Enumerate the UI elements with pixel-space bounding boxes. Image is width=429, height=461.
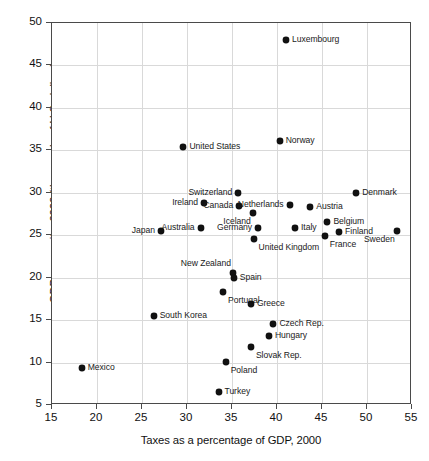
y-tick-label: 35 [8, 142, 42, 154]
data-point-marker [180, 144, 186, 150]
x-tick-mark [51, 404, 52, 409]
data-point-marker [322, 233, 328, 239]
y-tick-label: 40 [8, 100, 42, 112]
y-tick-mark [46, 319, 51, 320]
x-tick-label: 55 [391, 411, 429, 423]
x-tick-label: 20 [76, 411, 116, 423]
y-tick-mark [46, 404, 51, 405]
y-tick-mark [46, 234, 51, 235]
data-point-label: France [330, 240, 356, 249]
data-point-label: Luxembourg [292, 35, 339, 44]
data-point-label: Spain [240, 273, 262, 282]
y-tick-mark [46, 277, 51, 278]
x-tick-label: 35 [211, 411, 251, 423]
y-tick-mark [46, 107, 51, 108]
x-tick-mark [231, 404, 232, 409]
data-point-marker [277, 138, 283, 144]
data-point-label: Portugal [228, 296, 260, 305]
y-tick-mark [46, 22, 51, 23]
y-tick-label: 50 [8, 15, 42, 27]
data-point-label: Mexico [88, 363, 115, 372]
data-point-label: Austria [316, 202, 342, 211]
data-point-marker [353, 190, 359, 196]
data-point-label: Czech Rep. [279, 319, 323, 328]
data-point-label: South Korea [160, 311, 207, 320]
y-tick-label: 20 [8, 270, 42, 282]
y-tick-label: 5 [8, 397, 42, 409]
x-tick-mark [411, 404, 412, 409]
data-point-marker [283, 37, 289, 43]
data-point-label: Japan [132, 226, 155, 235]
data-point-marker [255, 225, 261, 231]
scatter-chart-figure: GDP per capita, 2000 (thousands of U.S. … [0, 0, 429, 461]
data-point-marker [248, 301, 254, 307]
x-tick-label: 45 [301, 411, 341, 423]
data-point-label: United States [189, 142, 240, 151]
x-axis-title: Taxes as a percentage of GDP, 2000 [51, 434, 411, 446]
data-point-marker [235, 190, 241, 196]
data-point-label: Germany [217, 223, 252, 232]
data-point-label: Canada [203, 201, 233, 210]
y-tick-label: 25 [8, 227, 42, 239]
data-point-marker [223, 359, 229, 365]
data-point-label: Australia [162, 223, 195, 232]
data-point-label: United Kingdom [259, 243, 319, 252]
y-tick-label: 45 [8, 57, 42, 69]
data-point-marker [248, 344, 254, 350]
data-point-label: Switzerland [188, 188, 232, 197]
data-point-marker [231, 275, 237, 281]
data-point-label: Norway [286, 136, 315, 145]
data-point-marker [307, 204, 313, 210]
x-tick-label: 40 [256, 411, 296, 423]
data-point-label: Sweden [364, 235, 395, 244]
x-tick-label: 30 [166, 411, 206, 423]
data-point-label: Italy [301, 223, 317, 232]
y-tick-mark [46, 192, 51, 193]
data-point-label: Turkey [225, 387, 251, 396]
data-point-label: Netherlands [238, 200, 284, 209]
data-point-marker [198, 225, 204, 231]
data-point-marker [336, 229, 342, 235]
x-tick-mark [321, 404, 322, 409]
data-point-marker [151, 313, 157, 319]
data-point-label: Ireland [172, 198, 198, 207]
data-points-layer: LuxembourgNorwayUnited StatesSwitzerland… [52, 23, 410, 403]
data-point-marker [266, 333, 272, 339]
y-tick-label: 10 [8, 355, 42, 367]
x-tick-label: 15 [31, 411, 71, 423]
data-point-label: New Zealand [181, 259, 231, 268]
data-point-marker [287, 202, 293, 208]
x-tick-mark [366, 404, 367, 409]
y-tick-mark [46, 64, 51, 65]
y-tick-mark [46, 149, 51, 150]
data-point-label: Greece [257, 299, 285, 308]
x-tick-mark [186, 404, 187, 409]
x-tick-mark [96, 404, 97, 409]
data-point-marker [270, 321, 276, 327]
x-tick-label: 25 [121, 411, 161, 423]
data-point-marker [324, 219, 330, 225]
data-point-marker [220, 289, 226, 295]
data-point-marker [292, 225, 298, 231]
y-tick-mark [46, 362, 51, 363]
y-tick-label: 15 [8, 312, 42, 324]
data-point-marker [79, 365, 85, 371]
x-tick-mark [141, 404, 142, 409]
data-point-marker [216, 389, 222, 395]
y-tick-label: 30 [8, 185, 42, 197]
data-point-marker [158, 228, 164, 234]
x-tick-label: 50 [346, 411, 386, 423]
plot-area: LuxembourgNorwayUnited StatesSwitzerland… [51, 22, 411, 404]
data-point-label: Denmark [362, 188, 397, 197]
x-tick-mark [276, 404, 277, 409]
data-point-marker [251, 236, 257, 242]
data-point-label: Slovak Rep. [256, 351, 302, 360]
data-point-label: Belgium [333, 217, 364, 226]
data-point-label: Poland [231, 366, 257, 375]
data-point-label: Hungary [275, 331, 307, 340]
